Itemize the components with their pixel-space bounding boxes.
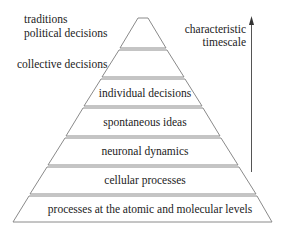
label-spontaneous-ideas: spontaneous ideas bbox=[103, 115, 186, 129]
axis-label-characteristic: characteristic bbox=[184, 22, 246, 36]
label-neuronal-dynamics: neuronal dynamics bbox=[101, 144, 188, 158]
label-cellular-processes: cellular processes bbox=[104, 173, 185, 187]
pyramid-diagram: traditions political decisions collectiv… bbox=[0, 0, 284, 234]
layer-collective bbox=[102, 50, 184, 77]
label-collective-decisions: collective decisions bbox=[17, 57, 107, 71]
axis-label-timescale: timescale bbox=[184, 35, 246, 49]
label-political-decisions: political decisions bbox=[24, 26, 107, 40]
label-traditions: traditions bbox=[24, 12, 67, 26]
label-atomic-molecular: processes at the atomic and molecular le… bbox=[48, 202, 252, 216]
layer-apex bbox=[120, 18, 166, 48]
timescale-arrow bbox=[249, 16, 254, 172]
label-individual-decisions: individual decisions bbox=[99, 86, 191, 100]
